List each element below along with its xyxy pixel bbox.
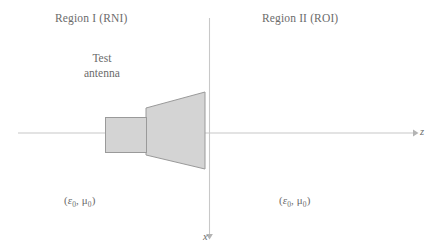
diagram-canvas	[0, 0, 437, 250]
antenna-region-diagram: Region I (RNI) Region II (ROI) Test ante…	[0, 0, 437, 250]
test-antenna-caption-line-2: antenna	[84, 66, 120, 81]
mu-subscript: 0	[303, 200, 307, 209]
region-one-label: Region I (RNI)	[55, 12, 127, 24]
mu-symbol: μ	[82, 194, 88, 206]
test-antenna-caption: Test antenna	[84, 51, 120, 81]
antenna-waveguide-feed	[106, 118, 147, 153]
region-two-label: Region II (ROI)	[262, 12, 338, 24]
test-antenna-caption-line-1: Test	[84, 51, 120, 66]
medium-parameters-region-one: (ε0, μ0)	[64, 194, 95, 206]
epsilon-subscript: 0	[72, 200, 76, 209]
z-axis-arrowhead	[413, 130, 419, 137]
medium-parameters-region-two: (ε0, μ0)	[279, 194, 310, 206]
x-axis-label: x	[203, 231, 208, 242]
epsilon-subscript: 0	[287, 200, 291, 209]
z-axis-label: z	[420, 126, 424, 137]
mu-subscript: 0	[88, 200, 92, 209]
mu-symbol: μ	[297, 194, 303, 206]
paren-close: )	[92, 194, 96, 206]
paren-close: )	[307, 194, 311, 206]
antenna-horn-flare	[146, 92, 205, 169]
